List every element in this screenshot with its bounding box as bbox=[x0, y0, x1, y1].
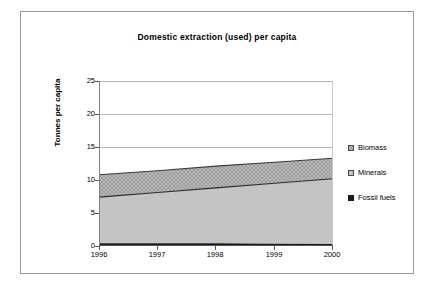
legend-item-fossil-fuels[interactable]: Fossil fuels bbox=[348, 193, 428, 202]
chart-page: Domestic extraction (used) per capita To… bbox=[0, 0, 435, 285]
y-tick-label-20: 20 bbox=[71, 110, 95, 118]
chart-frame: Domestic extraction (used) per capita To… bbox=[20, 11, 414, 274]
y-tick-label-10: 10 bbox=[71, 176, 95, 184]
plot-border-bottom bbox=[99, 245, 333, 246]
plot-border-right bbox=[332, 81, 333, 246]
chart-title: Domestic extraction (used) per capita bbox=[21, 32, 413, 42]
biomass-swatch-icon bbox=[348, 145, 354, 151]
x-tick-label-1997: 1997 bbox=[137, 250, 177, 259]
legend-item-biomass[interactable]: Biomass bbox=[348, 143, 428, 152]
x-tick-label-1999: 1999 bbox=[254, 250, 294, 259]
plot-area bbox=[99, 81, 333, 246]
x-tick-label-2000: 2000 bbox=[312, 250, 352, 259]
y-tick-label-25: 25 bbox=[71, 77, 95, 85]
chart-legend: Biomass Minerals Fossil fuels bbox=[348, 143, 428, 218]
stacked-area-series bbox=[99, 81, 333, 246]
y-tick-label-0: 0 bbox=[71, 242, 95, 250]
legend-label-biomass: Biomass bbox=[358, 143, 387, 152]
plot-border-left bbox=[99, 81, 100, 246]
plot-border-top bbox=[99, 81, 333, 82]
legend-label-minerals: Minerals bbox=[358, 168, 386, 177]
y-tick-label-15: 15 bbox=[71, 143, 95, 151]
x-tick-label-1996: 1996 bbox=[79, 250, 119, 259]
fossil-fuels-swatch-icon bbox=[348, 195, 354, 201]
legend-item-minerals[interactable]: Minerals bbox=[348, 168, 428, 177]
legend-label-fossil-fuels: Fossil fuels bbox=[358, 193, 396, 202]
x-tick-label-1998: 1998 bbox=[195, 250, 235, 259]
minerals-swatch-icon bbox=[348, 170, 354, 176]
y-axis-title: Tonnes per capita bbox=[53, 53, 62, 173]
y-tick-label-5: 5 bbox=[71, 209, 95, 217]
